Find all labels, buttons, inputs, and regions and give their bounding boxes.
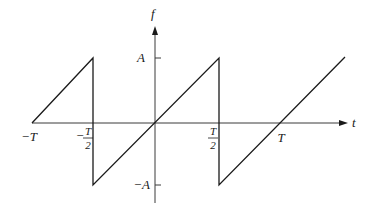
- f-axis-arrow-icon: [152, 26, 158, 35]
- frac-denominator: 2: [85, 139, 91, 151]
- frac-numerator: T: [85, 125, 92, 137]
- x-tick-label-T: T: [277, 130, 285, 145]
- frac-numerator: T: [210, 125, 217, 137]
- x-tick-label-neg-T: −T: [21, 129, 38, 144]
- f-axis-label: f: [151, 6, 157, 21]
- t-axis-label: t: [352, 115, 356, 130]
- y-tick-label-A: A: [136, 50, 145, 65]
- x-tick-label-half-T: T 2: [208, 125, 218, 151]
- sawtooth-curve: [32, 57, 345, 185]
- frac-denominator: 2: [210, 139, 216, 151]
- t-axis-arrow-icon: [339, 120, 348, 126]
- frac-sign: −: [76, 128, 85, 143]
- x-tick-label-neg-half-T: − T 2: [76, 125, 93, 151]
- y-tick-label-neg-A: −A: [133, 177, 150, 192]
- sawtooth-diagram: f t A −A −T − T 2 T 2 T: [0, 0, 371, 217]
